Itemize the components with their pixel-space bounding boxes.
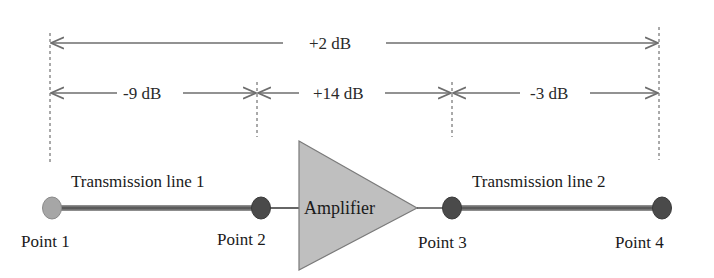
total-gain-dimension: +2 dB	[51, 34, 658, 53]
transmission-line-1: Transmission line 1	[52, 172, 260, 211]
point-4-label: Point 4	[615, 233, 664, 252]
transmission-line-2: Transmission line 2	[452, 172, 662, 211]
segment-1-dimension: -9 dB	[51, 84, 256, 103]
point-2-label: Point 2	[217, 230, 266, 249]
point-3: Point 3	[418, 197, 467, 252]
segment-2-label: +14 dB	[313, 84, 364, 103]
point-1-node-icon	[43, 197, 62, 219]
transmission-line-1-label: Transmission line 1	[71, 172, 205, 191]
transmission-line-1-cable	[52, 205, 260, 211]
amplifier-label: Amplifier	[304, 198, 375, 218]
point-1-label: Point 1	[21, 232, 70, 251]
point-3-node-icon	[443, 197, 462, 219]
transmission-line-2-label: Transmission line 2	[472, 172, 606, 191]
segment-3-dimension: -3 dB	[453, 84, 658, 103]
segment-1-label: -9 dB	[123, 84, 161, 103]
point-4-node-icon	[653, 197, 672, 219]
amplifier: Amplifier	[299, 141, 417, 270]
segment-3-label: -3 dB	[530, 84, 568, 103]
segment-2-dimension: +14 dB	[258, 84, 451, 103]
gain-diagram: +2 dB -9 dB +14 dB -3 dB Transmission li…	[0, 0, 714, 278]
point-2-node-icon	[252, 197, 271, 219]
total-gain-label: +2 dB	[309, 34, 351, 53]
transmission-line-2-cable	[452, 205, 662, 211]
point-2: Point 2	[217, 197, 271, 249]
point-3-label: Point 3	[418, 233, 467, 252]
